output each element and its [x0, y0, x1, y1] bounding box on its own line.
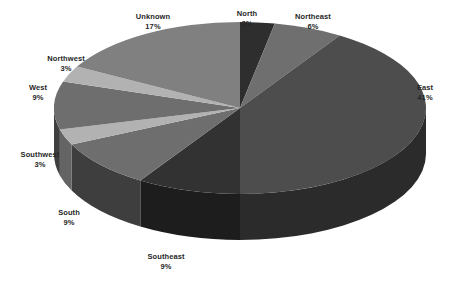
pie-top-slices — [54, 22, 426, 194]
pie-chart-canvas — [0, 0, 454, 286]
pie-chart-figure: North3%Northeast6%East41%Southeast9%Sout… — [0, 0, 454, 286]
